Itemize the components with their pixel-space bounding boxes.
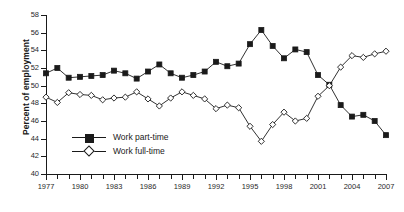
open-diamond-icon <box>72 145 106 157</box>
data-point-marker-square <box>293 47 298 52</box>
x-tick <box>307 175 308 179</box>
y-tick-label: 46 <box>1 117 39 125</box>
x-tick <box>239 175 240 179</box>
x-tick <box>69 175 70 179</box>
y-tick-label: 48 <box>1 99 39 107</box>
data-point-marker-square <box>44 71 49 76</box>
data-point-marker-square <box>372 119 377 124</box>
x-tick <box>216 175 217 180</box>
x-tick <box>148 175 149 180</box>
x-tick <box>57 175 58 179</box>
data-point-marker-diamond <box>100 97 106 103</box>
data-point-marker-diamond <box>77 91 83 97</box>
data-point-marker-diamond <box>145 96 151 102</box>
x-tick-label: 2007 <box>366 183 404 191</box>
x-tick <box>193 175 194 179</box>
legend-label: Work part-time <box>113 132 169 142</box>
legend-item-part-time: Work part-time <box>72 130 169 144</box>
data-point-marker-diamond <box>236 105 242 111</box>
x-tick <box>227 175 228 179</box>
y-tick-label: 58 <box>1 11 39 19</box>
x-tick <box>250 175 251 180</box>
x-tick <box>103 175 104 179</box>
data-point-marker-diamond <box>134 89 140 95</box>
data-point-marker-square <box>270 43 275 48</box>
data-point-marker-square <box>236 61 241 66</box>
data-point-marker-diamond <box>304 115 310 121</box>
x-tick <box>352 175 353 180</box>
x-tick <box>329 175 330 179</box>
y-tick-label: 54 <box>1 46 39 54</box>
data-point-marker-square <box>361 112 366 117</box>
data-point-marker-square <box>316 73 321 78</box>
y-tick-label: 44 <box>1 135 39 143</box>
y-tick-label: 52 <box>1 64 39 72</box>
x-tick <box>386 175 387 180</box>
data-point-marker-diamond <box>43 94 49 100</box>
data-point-marker-diamond <box>156 103 162 109</box>
x-tick <box>363 175 364 179</box>
data-point-marker-square <box>78 74 83 79</box>
legend-item-full-time: Work full-time <box>72 144 169 158</box>
data-point-marker-square <box>304 50 309 55</box>
data-point-marker-square <box>89 73 94 78</box>
data-point-marker-square <box>338 103 343 108</box>
x-tick <box>284 175 285 180</box>
data-point-marker-square <box>214 59 219 64</box>
x-tick <box>261 175 262 179</box>
x-tick <box>137 175 138 179</box>
data-point-marker-square <box>180 75 185 80</box>
data-point-marker-square <box>112 68 117 73</box>
data-point-marker-square <box>202 69 207 74</box>
data-point-marker-square <box>384 133 389 138</box>
data-point-marker-square <box>191 73 196 78</box>
data-point-marker-diamond <box>179 89 185 95</box>
data-point-marker-square <box>66 75 71 80</box>
x-tick <box>171 175 172 179</box>
data-point-marker-square <box>282 56 287 61</box>
data-point-marker-diamond <box>360 54 366 60</box>
x-tick <box>205 175 206 179</box>
data-point-marker-diamond <box>88 92 94 98</box>
y-tick-label: 42 <box>1 152 39 160</box>
x-tick <box>295 175 296 179</box>
x-tick <box>159 175 160 179</box>
x-tick <box>341 175 342 179</box>
x-tick <box>182 175 183 180</box>
data-point-marker-diamond <box>372 51 378 57</box>
data-point-marker-square <box>350 114 355 119</box>
series-line-full-time <box>46 51 386 141</box>
data-point-marker-square <box>168 71 173 76</box>
data-point-marker-square <box>146 69 151 74</box>
x-tick <box>125 175 126 179</box>
y-tick-label: 50 <box>1 82 39 90</box>
legend-label: Work full-time <box>113 146 165 156</box>
data-point-marker-square <box>100 73 105 78</box>
data-point-marker-diamond <box>224 102 230 108</box>
data-point-marker-diamond <box>383 48 389 54</box>
data-point-marker-square <box>55 66 60 71</box>
data-point-marker-diamond <box>168 95 174 101</box>
data-point-marker-diamond <box>111 95 117 101</box>
chart-legend: Work part-time Work full-time <box>72 130 169 158</box>
data-point-marker-diamond <box>190 92 196 98</box>
data-point-marker-diamond <box>122 94 128 100</box>
data-point-marker-square <box>134 76 139 81</box>
series-line-part-time <box>46 30 386 135</box>
data-point-marker-square <box>123 71 128 76</box>
data-point-marker-square <box>225 64 230 69</box>
x-tick <box>273 175 274 179</box>
y-tick-label: 40 <box>1 170 39 178</box>
x-tick <box>91 175 92 179</box>
data-point-marker-square <box>259 28 264 33</box>
data-point-marker-square <box>157 62 162 67</box>
filled-square-icon <box>72 131 106 143</box>
x-tick <box>375 175 376 179</box>
x-tick <box>80 175 81 180</box>
y-tick-label: 56 <box>1 29 39 37</box>
x-tick <box>318 175 319 180</box>
data-point-marker-square <box>248 42 253 47</box>
x-tick <box>46 175 47 180</box>
chart-container: Percent of employment 404244464850525456… <box>0 0 404 212</box>
x-tick <box>114 175 115 180</box>
